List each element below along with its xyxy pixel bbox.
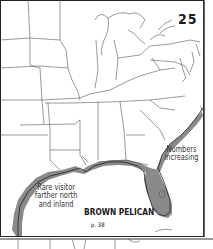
map-number: 25 — [178, 12, 198, 26]
page-reference: p. 38 — [91, 222, 105, 228]
map-border — [1, 1, 204, 237]
inland-note: Rare visitor farther north and inland — [35, 184, 78, 209]
inland-note-line: and inland — [35, 201, 78, 209]
atlantic-note-line: increasing — [164, 154, 198, 162]
species-name: BROWN PELICAN — [84, 208, 154, 217]
atlantic-note: Numbers increasing — [164, 146, 198, 163]
next-map-strip — [18, 239, 140, 249]
